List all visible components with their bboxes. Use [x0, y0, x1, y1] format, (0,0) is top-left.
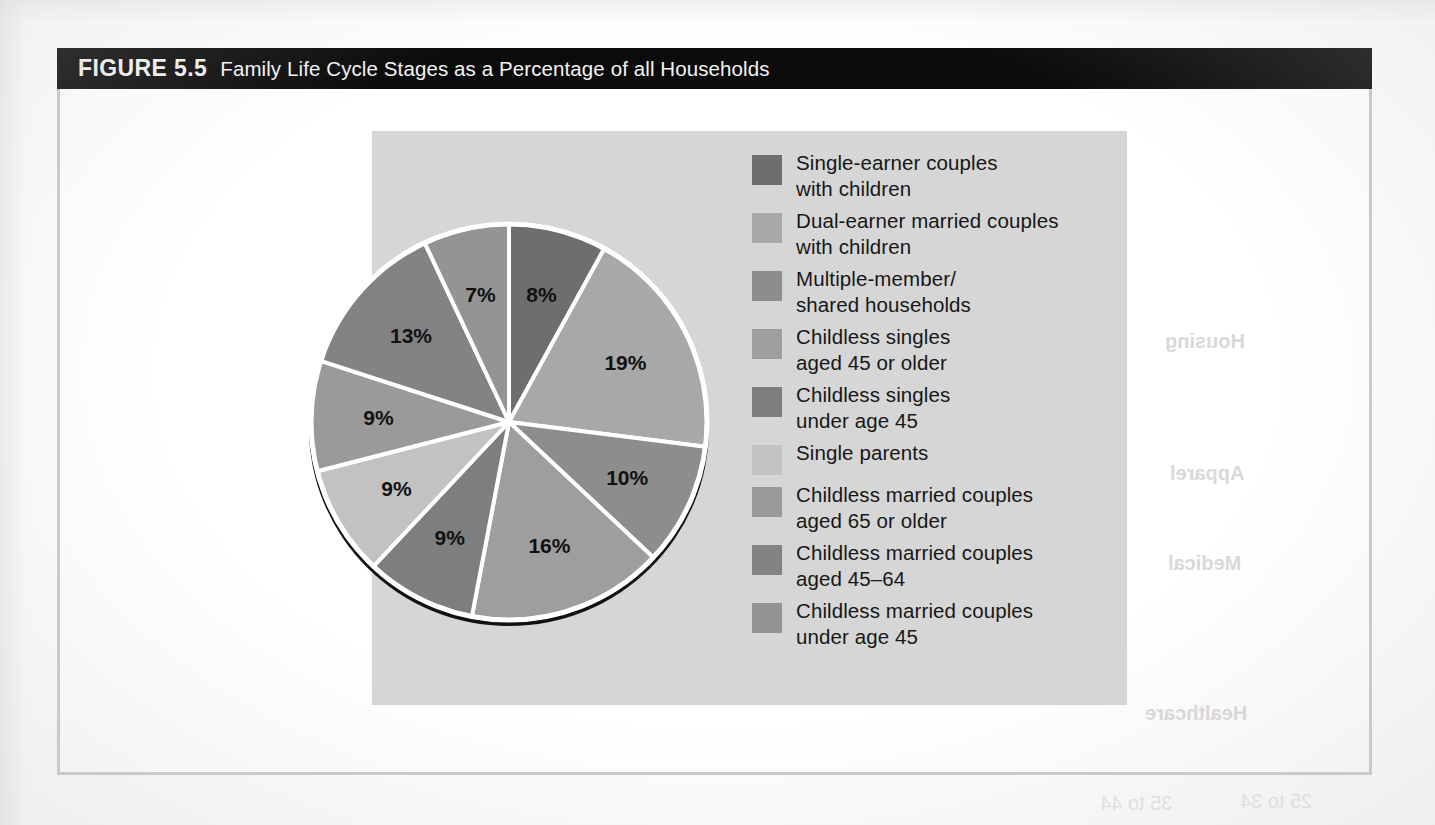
- legend-item-label: Childless singles under age 45: [796, 382, 950, 433]
- legend-item: Childless married couples under age 45: [752, 598, 1122, 649]
- legend-item: Single-earner couples with children: [752, 150, 1122, 201]
- pie-slice-label: 9%: [363, 406, 394, 429]
- figure-number: FIGURE 5.5: [78, 55, 207, 82]
- pie-chart: 8%19%10%16%9%9%9%13%7%: [290, 200, 740, 650]
- legend-item-label: Single parents: [796, 440, 928, 466]
- pie-slice-label: 9%: [381, 477, 412, 500]
- pie-chart-svg: 8%19%10%16%9%9%9%13%7%: [290, 200, 740, 650]
- legend-color-swatch: [752, 603, 782, 633]
- legend-color-swatch: [752, 545, 782, 575]
- legend-color-swatch: [752, 329, 782, 359]
- legend-item-label: Childless married couples under age 45: [796, 598, 1033, 649]
- pie-slice-label: 13%: [390, 324, 432, 347]
- pie-slice-label: 19%: [604, 351, 646, 374]
- legend-item-label: Dual-earner married couples with childre…: [796, 208, 1058, 259]
- figure-title: Family Life Cycle Stages as a Percentage…: [220, 57, 769, 81]
- pie-slice-label: 8%: [526, 283, 557, 306]
- legend-item: Single parents: [752, 440, 1122, 475]
- bleed-through-text: 35 to 44: [1100, 792, 1172, 815]
- figure-screenshot: HousingApparelMedicalHealthcare25 to 343…: [0, 0, 1435, 825]
- pie-slice-label: 10%: [606, 466, 648, 489]
- pie-slice-label: 16%: [528, 534, 570, 557]
- legend-item: Childless married couples aged 65 or old…: [752, 482, 1122, 533]
- legend-item-label: Childless married couples aged 45–64: [796, 540, 1033, 591]
- legend-color-swatch: [752, 271, 782, 301]
- bleed-through-text: 25 to 34: [1240, 790, 1312, 813]
- legend-item-label: Single-earner couples with children: [796, 150, 998, 201]
- legend-item: Dual-earner married couples with childre…: [752, 208, 1122, 259]
- legend-color-swatch: [752, 487, 782, 517]
- pie-slice-label: 7%: [465, 283, 496, 306]
- legend-item-label: Multiple-member/ shared households: [796, 266, 971, 317]
- legend-item-label: Childless married couples aged 65 or old…: [796, 482, 1033, 533]
- legend-color-swatch: [752, 213, 782, 243]
- pie-slice-label: 9%: [435, 526, 466, 549]
- legend-item: Childless singles aged 45 or older: [752, 324, 1122, 375]
- legend-color-swatch: [752, 445, 782, 475]
- legend-item-label: Childless singles aged 45 or older: [796, 324, 950, 375]
- chart-legend: Single-earner couples with childrenDual-…: [752, 150, 1122, 656]
- legend-item: Childless singles under age 45: [752, 382, 1122, 433]
- legend-color-swatch: [752, 155, 782, 185]
- figure-caption-bar: FIGURE 5.5 Family Life Cycle Stages as a…: [57, 48, 1372, 89]
- legend-item: Multiple-member/ shared households: [752, 266, 1122, 317]
- legend-item: Childless married couples aged 45–64: [752, 540, 1122, 591]
- legend-color-swatch: [752, 387, 782, 417]
